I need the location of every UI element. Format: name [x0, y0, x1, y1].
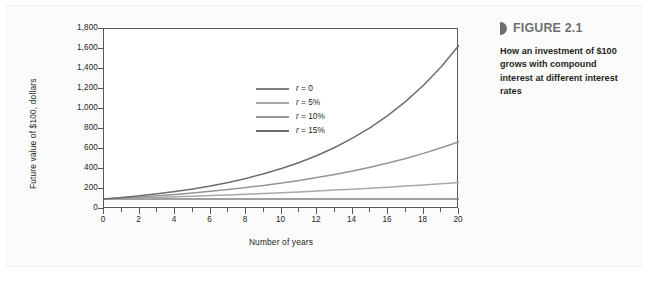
x-tick-mark: [245, 208, 246, 214]
x-tick-label: 2: [124, 216, 154, 224]
legend-label: r = 10%: [296, 111, 325, 122]
y-tick-label: 200: [84, 184, 98, 192]
y-tick-label: 1,200: [77, 84, 98, 92]
x-tick-label: 6: [195, 216, 225, 224]
x-tick-mark: [174, 208, 175, 214]
legend-label: r = 15%: [296, 125, 325, 136]
figure-page: Future value of $100, dollars 0200400600…: [0, 0, 654, 282]
x-tick-mark-minor: [227, 208, 228, 212]
legend-item: r = 5%: [256, 97, 351, 108]
y-tick-label: 400: [84, 164, 98, 172]
x-tick-mark: [139, 208, 140, 214]
x-tick-mark: [210, 208, 211, 214]
y-tick-label: 1,600: [77, 44, 98, 52]
legend-label: r = 5%: [296, 97, 320, 108]
x-tick-mark-minor: [405, 208, 406, 212]
x-tick-mark-minor: [440, 208, 441, 212]
y-axis-title: Future value of $100, dollars: [28, 0, 40, 47]
legend-item: r = 15%: [256, 125, 351, 136]
x-tick-label: 18: [408, 216, 438, 224]
legend-swatch: [256, 116, 289, 118]
series-line: [104, 142, 459, 199]
y-tick-label: 600: [84, 144, 98, 152]
x-tick-label: 0: [88, 216, 118, 224]
x-tick-mark-minor: [263, 208, 264, 212]
x-tick-mark-minor: [192, 208, 193, 212]
legend-label: r = 0: [296, 83, 313, 94]
x-tick-label: 4: [159, 216, 189, 224]
x-tick-label: 16: [372, 216, 402, 224]
legend-swatch: [256, 102, 289, 104]
figure-caption-text: How an investment of $100 grows with com…: [500, 45, 624, 99]
legend-swatch: [256, 130, 289, 132]
legend-swatch: [256, 88, 289, 90]
x-tick-mark-minor: [369, 208, 370, 212]
x-tick-label: 12: [301, 216, 331, 224]
series-line: [104, 183, 459, 200]
y-axis-title-text: Future value of $100, dollars: [28, 47, 38, 189]
x-axis-tick-marks: [103, 208, 459, 215]
x-axis-title: Number of years: [103, 237, 459, 247]
y-tick-label: 1,400: [77, 64, 98, 72]
y-axis-tick-labels: 02004006008001,0001,2001,4001,6001,800: [55, 0, 98, 282]
x-tick-label: 8: [230, 216, 260, 224]
figure-label: FIGURE 2.1: [513, 20, 582, 36]
x-tick-mark: [352, 208, 353, 214]
x-tick-mark: [316, 208, 317, 214]
plot-area: r = 0r = 5%r = 10%r = 15%: [103, 28, 458, 208]
y-tick-label: 1,800: [77, 24, 98, 32]
x-tick-label: 14: [337, 216, 367, 224]
legend-item: r = 10%: [256, 111, 351, 122]
x-tick-mark-minor: [156, 208, 157, 212]
x-tick-label: 10: [266, 216, 296, 224]
x-tick-mark-minor: [121, 208, 122, 212]
figure-marker-icon: [500, 22, 507, 35]
x-tick-mark: [423, 208, 424, 214]
x-tick-mark-minor: [334, 208, 335, 212]
y-tick-label: 800: [84, 124, 98, 132]
figure-heading: FIGURE 2.1: [500, 20, 630, 37]
chart-legend: r = 0r = 5%r = 10%r = 15%: [256, 83, 351, 139]
x-tick-mark: [103, 208, 104, 214]
x-tick-mark: [387, 208, 388, 214]
x-tick-mark: [281, 208, 282, 214]
compound-interest-chart: Future value of $100, dollars 0200400600…: [0, 0, 490, 282]
legend-item: r = 0: [256, 83, 351, 94]
x-tick-mark: [458, 208, 459, 214]
x-tick-label: 20: [443, 216, 473, 224]
figure-caption-block: FIGURE 2.1 How an investment of $100 gro…: [500, 20, 630, 99]
x-tick-mark-minor: [298, 208, 299, 212]
x-axis-tick-labels: 02468101214161820: [103, 216, 459, 228]
y-tick-label: 1,000: [77, 104, 98, 112]
